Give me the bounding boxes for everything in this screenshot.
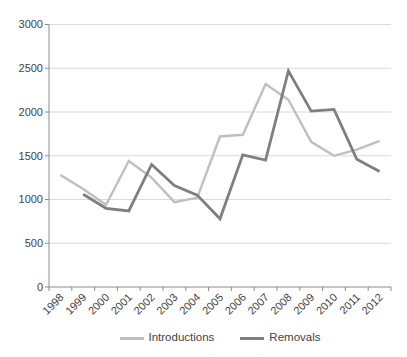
- legend-item-introductions: Introductions: [120, 332, 215, 344]
- x-axis-label: 1999: [63, 291, 89, 317]
- x-axis-label: 2012: [359, 291, 385, 317]
- x-axis-label: 2007: [245, 291, 271, 317]
- y-axis-label: 2500: [19, 62, 43, 74]
- introductions-line-swatch: [120, 337, 144, 340]
- y-axis-label: 3000: [19, 18, 43, 30]
- series-line-introductions: [60, 84, 379, 205]
- x-axis-label: 2004: [177, 291, 203, 317]
- legend-label-introductions: Introductions: [149, 332, 215, 344]
- line-chart: 0500100015002000250030001998199920002001…: [0, 0, 407, 357]
- legend: Introductions Removals: [49, 329, 391, 347]
- y-axis-label: 1000: [19, 193, 43, 205]
- x-axis-label: 2011: [337, 291, 362, 316]
- legend-label-removals: Removals: [269, 332, 320, 344]
- x-axis-label: 2009: [291, 291, 317, 317]
- y-axis-label: 2000: [19, 106, 43, 118]
- x-axis-label: 2010: [314, 291, 340, 317]
- legend-item-removals: Removals: [240, 332, 320, 344]
- removals-line-swatch: [240, 337, 264, 340]
- x-axis-label: 2003: [154, 291, 180, 317]
- y-axis-label: 1500: [19, 150, 43, 162]
- x-axis-label: 2005: [200, 291, 226, 317]
- y-axis-label: 500: [25, 237, 43, 249]
- x-axis-label: 2000: [86, 291, 112, 317]
- x-axis-label: 2006: [222, 291, 248, 317]
- x-axis-label: 2008: [268, 291, 294, 317]
- plot-area: 0500100015002000250030001998199920002001…: [0, 0, 407, 357]
- x-axis-label: 2001: [108, 291, 134, 317]
- y-axis-label: 0: [37, 281, 43, 293]
- series-line-removals: [83, 71, 379, 219]
- x-axis-label: 1998: [40, 291, 66, 317]
- x-axis-label: 2002: [131, 291, 157, 317]
